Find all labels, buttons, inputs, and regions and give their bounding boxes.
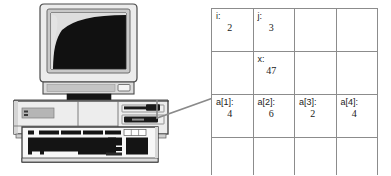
memory-cell-empty[interactable] (295, 138, 337, 176)
memory-cell-value: 47 (258, 65, 292, 77)
memory-cell-label: a[1]: (216, 97, 250, 107)
keyboard-front-lip (22, 158, 158, 162)
memory-cell-empty[interactable] (295, 9, 337, 52)
memory-cell-value: 4 (341, 108, 375, 120)
keyboard-numeric-keypad[interactable] (126, 138, 148, 155)
table-row: a[1]: 4 a[2]: 6 a[3]: 2 a[4]: 4 (212, 95, 378, 138)
memory-cell-value: 3 (258, 22, 292, 34)
memory-cell-value: 2 (216, 22, 250, 34)
memory-cell-empty[interactable] (212, 52, 254, 95)
memory-cell-empty[interactable] (336, 52, 378, 95)
memory-cell-empty[interactable] (253, 138, 295, 176)
memory-cell-a2[interactable]: a[2]: 6 (253, 95, 295, 138)
table-row (212, 138, 378, 176)
memory-cell-label: a[4]: (341, 97, 375, 107)
figure-computer-memory-diagram: i: 2 j: 3 (0, 0, 391, 175)
memory-cell-empty[interactable] (295, 52, 337, 95)
memory-cell-label: j: (258, 11, 292, 21)
memory-cell-x[interactable]: x: 47 (253, 52, 295, 95)
keyboard-spacebar[interactable] (44, 152, 78, 156)
memory-cell-i[interactable]: i: 2 (212, 9, 254, 52)
table-row: x: 47 (212, 52, 378, 95)
keyboard-fkeys-group-2[interactable] (61, 131, 81, 135)
keyboard-fkeys-group-1[interactable] (39, 131, 59, 135)
keyboard-indicator-panel (124, 130, 146, 136)
memory-cell-a4[interactable]: a[4]: 4 (336, 95, 378, 138)
keyboard-ctrl-key-left[interactable] (32, 152, 40, 156)
keyboard-fkeys-group-3[interactable] (83, 131, 103, 135)
drive-eject-button-upper[interactable] (146, 104, 160, 111)
drive-slot-upper-opening (124, 106, 146, 109)
memory-cell-label: a[3]: (299, 97, 333, 107)
table-row: i: 2 j: 3 (212, 9, 378, 52)
keyboard-nav-cluster-upper[interactable] (108, 138, 122, 146)
desktop-computer-illustration (0, 0, 200, 175)
monitor-stand-neck (67, 94, 111, 100)
memory-cell-a1[interactable]: a[1]: 4 (212, 95, 254, 138)
memory-cell-empty[interactable] (212, 138, 254, 176)
memory-cell-empty[interactable] (336, 138, 378, 176)
memory-cell-empty[interactable] (336, 9, 378, 52)
memory-cell-label: i: (216, 11, 250, 21)
memory-cell-label: a[2]: (258, 97, 292, 107)
case-left-shading (14, 101, 18, 134)
memory-variables-table: i: 2 j: 3 (211, 8, 378, 175)
memory-cell-value: 2 (299, 108, 333, 120)
monitor-vent-strip (47, 85, 115, 92)
keyboard-nav-cluster-lower[interactable] (108, 147, 122, 151)
drive-slot-lower-notch (132, 119, 144, 121)
keyboard-right-shading (155, 127, 158, 158)
memory-cell-a3[interactable]: a[3]: 2 (295, 95, 337, 138)
memory-table-body: i: 2 j: 3 (212, 9, 378, 176)
power-button[interactable] (118, 85, 130, 92)
memory-cell-j[interactable]: j: 3 (253, 9, 295, 52)
keyboard-esc-key[interactable] (28, 131, 34, 135)
keyboard-fkeys-group-4[interactable] (105, 131, 121, 135)
case-badge-mark-1 (24, 111, 28, 113)
keyboard-arrow-keys[interactable] (106, 153, 122, 156)
case-badge-plate (22, 108, 54, 118)
memory-cell-value: 4 (216, 108, 250, 120)
case-badge-mark-2 (24, 114, 28, 116)
memory-cell-label: x: (258, 54, 292, 64)
memory-cell-value: 6 (258, 108, 292, 120)
